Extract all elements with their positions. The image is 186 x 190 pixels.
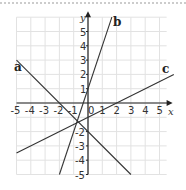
grid bbox=[17, 17, 167, 174]
y-axis-label: y bbox=[79, 12, 86, 23]
svg-text:-2: -2 bbox=[75, 127, 85, 138]
svg-text:-3: -3 bbox=[39, 105, 49, 116]
svg-text:1: 1 bbox=[80, 84, 86, 95]
svg-text:3: 3 bbox=[80, 55, 86, 66]
svg-text:-4: -4 bbox=[25, 105, 35, 116]
coordinate-plane: -5-4-3-2-101234554321-2-3-4-5 a b c x y bbox=[0, 0, 186, 190]
svg-text:2: 2 bbox=[80, 69, 86, 80]
svg-text:-5: -5 bbox=[75, 170, 85, 181]
svg-text:-5: -5 bbox=[11, 105, 21, 116]
lines bbox=[17, 17, 174, 174]
axes bbox=[17, 11, 173, 174]
svg-text:-2: -2 bbox=[53, 105, 63, 116]
line-label-c: c bbox=[162, 62, 169, 76]
line-label-b: b bbox=[113, 15, 121, 29]
svg-text:4: 4 bbox=[80, 41, 86, 52]
svg-text:4: 4 bbox=[142, 105, 148, 116]
svg-text:-3: -3 bbox=[75, 141, 85, 152]
svg-text:-1: -1 bbox=[68, 105, 78, 116]
svg-text:-4: -4 bbox=[75, 155, 85, 166]
svg-text:2: 2 bbox=[114, 105, 120, 116]
svg-text:5: 5 bbox=[80, 27, 86, 38]
x-axis-label: x bbox=[168, 106, 174, 117]
svg-text:3: 3 bbox=[128, 105, 134, 116]
line-label-a: a bbox=[14, 60, 22, 74]
svg-text:5: 5 bbox=[157, 105, 163, 116]
